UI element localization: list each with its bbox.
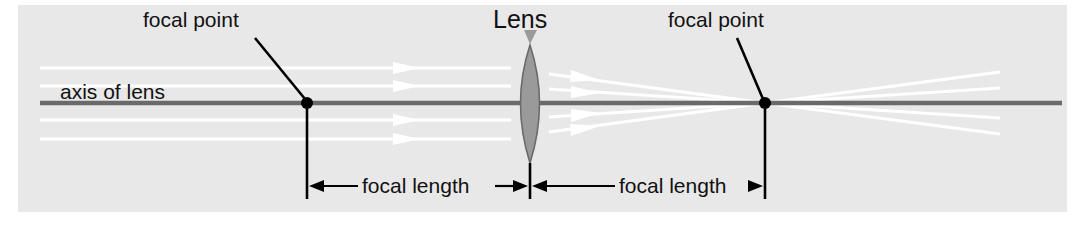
ray-arrowhead-refracted-1 xyxy=(570,70,600,82)
dimension-arrowhead-right-start xyxy=(532,180,547,192)
dimension-arrowhead-left-end xyxy=(513,180,528,192)
ray-arrowhead-incoming-1 xyxy=(393,62,420,74)
label-axis-of-lens: axis of lens xyxy=(60,81,165,102)
biconvex-lens xyxy=(521,45,540,163)
diagram-vector-layer xyxy=(0,0,1085,230)
ray-arrowhead-incoming-3 xyxy=(393,114,420,126)
ray-arrowhead-refracted-2 xyxy=(571,86,600,98)
dimension-arrowhead-left-start xyxy=(309,180,324,192)
label-focal-point-right: focal point xyxy=(668,9,764,30)
leader-line-focal-right xyxy=(737,38,763,99)
ray-arrowhead-refracted-4 xyxy=(570,124,600,136)
ray-arrowhead-incoming-2 xyxy=(393,80,420,92)
ray-arrowhead-incoming-4 xyxy=(393,133,420,145)
diagram-stage: focal point focal point Lens axis of len… xyxy=(0,0,1085,230)
dimension-arrowhead-right-end xyxy=(748,180,763,192)
label-focal-point-left: focal point xyxy=(143,9,239,30)
label-focal-length-right: focal length xyxy=(619,175,726,196)
label-lens: Lens xyxy=(493,7,547,32)
label-focal-length-left: focal length xyxy=(362,175,469,196)
